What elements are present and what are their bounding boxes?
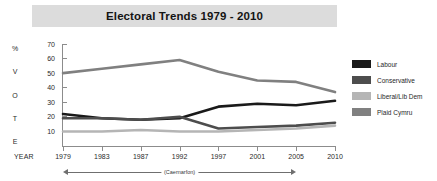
span-annotation-label: (Caernarfon) [161, 166, 198, 178]
chart-screenshot: Electoral Trends 1979 - 2010 % V O T E 1… [0, 0, 437, 181]
legend-item-label: Conservative [377, 77, 415, 84]
caernarfon-span-annotation: (Caernarfon) [63, 166, 296, 178]
legend-swatch-icon [352, 92, 371, 100]
legend-item-label: Plaid Cymru [377, 109, 412, 116]
span-arrow-right-icon [291, 169, 296, 175]
legend-item-plaid-cymru[interactable]: Plaid Cymru [352, 104, 436, 120]
legend-swatch-icon [352, 76, 371, 84]
legend-item-label: Labour [377, 61, 397, 68]
legend-item-conservative[interactable]: Conservative [352, 72, 436, 88]
legend-item-liberal-lib-dem[interactable]: Liberal/Lib Dem [352, 88, 436, 104]
series-line-plaid-cymru [63, 60, 335, 92]
series-line-labour [63, 101, 335, 120]
legend-item-label: Liberal/Lib Dem [377, 93, 423, 100]
legend-swatch-icon [352, 108, 371, 116]
series-line-conservative [63, 117, 335, 129]
legend-item-labour[interactable]: Labour [352, 56, 436, 72]
chart-legend: LabourConservativeLiberal/Lib DemPlaid C… [352, 56, 436, 120]
legend-swatch-icon [352, 60, 371, 68]
